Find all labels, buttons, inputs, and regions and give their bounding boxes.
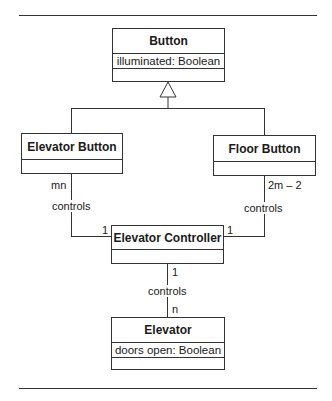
class-button: Button illuminated: Boolean xyxy=(112,28,225,82)
class-name: Elevator Controller xyxy=(112,226,223,250)
class-name: Button xyxy=(113,29,224,54)
association-line xyxy=(224,236,265,237)
class-name: Elevator Button xyxy=(22,134,122,160)
generalization-left-stem xyxy=(71,108,72,133)
multiplicity-label: 1 xyxy=(172,266,178,278)
multiplicity-label: 2m – 2 xyxy=(268,179,302,191)
class-name: Elevator xyxy=(112,318,224,343)
multiplicity-label: 1 xyxy=(227,224,233,236)
class-name: Floor Button xyxy=(214,136,315,162)
class-attributes xyxy=(112,250,223,263)
class-attribute: doors open: Boolean xyxy=(112,343,224,358)
multiplicity-label: 1 xyxy=(102,224,108,236)
association-line xyxy=(71,236,112,237)
class-operations xyxy=(113,69,224,81)
multiplicity-label: n xyxy=(172,303,178,315)
top-rule xyxy=(19,15,317,16)
generalization-arrow-icon xyxy=(158,81,178,109)
class-attributes xyxy=(214,162,315,175)
association-label: controls xyxy=(51,200,92,212)
class-attributes xyxy=(22,160,122,173)
association-label: controls xyxy=(243,202,284,214)
class-floor-button: Floor Button xyxy=(213,135,316,176)
association-label: controls xyxy=(147,285,188,297)
class-elevator-controller: Elevator Controller xyxy=(111,225,224,264)
bottom-rule xyxy=(19,388,317,389)
class-elevator: Elevator doors open: Boolean xyxy=(111,317,225,370)
multiplicity-label: mn xyxy=(51,179,66,191)
class-elevator-button: Elevator Button xyxy=(21,133,123,174)
class-operations xyxy=(112,358,224,369)
generalization-right-stem xyxy=(264,108,265,135)
generalization-bar xyxy=(71,108,265,109)
class-attribute: illuminated: Boolean xyxy=(113,54,224,69)
